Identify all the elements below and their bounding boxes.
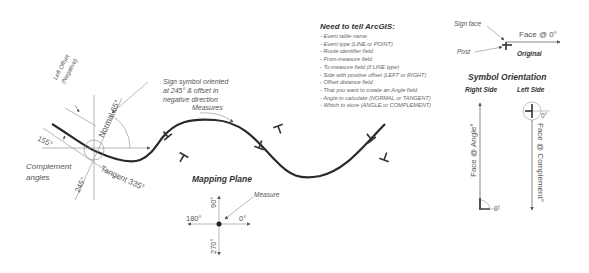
sign-symbols [160, 124, 392, 164]
instruction-item: - To-measure field (if LINE type) [320, 64, 431, 72]
deg-90-label: 90° [209, 197, 218, 208]
sign-note-line-1: Sign symbol oriented [163, 78, 228, 85]
deg-180-label: 180° [186, 214, 202, 223]
right-side-label: Right Side [465, 86, 497, 93]
instruction-item: - Event table name [320, 33, 431, 41]
face-0-label: Face @ 0° [519, 30, 557, 39]
measures-label: Measures [192, 104, 223, 111]
mapping-plane-title: Mapping Plane [192, 174, 252, 184]
deg-270-label: 270° [209, 238, 218, 254]
zero-right-label: 0° [494, 205, 500, 212]
complement-label: Complement [26, 162, 71, 171]
instruction-item: - Angle to calculate (NORMAL or TANGENT) [320, 95, 431, 103]
mapping-plane-origin [217, 222, 222, 227]
face-complement-label: Face @ Complement° [536, 123, 545, 202]
instructions-panel: Need to tell ArcGIS: - Event table name … [320, 22, 431, 110]
right-side-symbol [480, 103, 500, 210]
angles-label: angles [26, 173, 50, 182]
instructions-heading: Need to tell ArcGIS: [320, 22, 431, 32]
instruction-item: - Side with positive offset (LEFT or RIG… [320, 72, 431, 80]
original-title: Original [517, 50, 542, 57]
sign-note-line-2: at 245° & offset in [163, 87, 218, 94]
instruction-item: - Which to store (ANGLE or COMPLEMENT) [320, 102, 431, 110]
instruction-item: - That you want to create an Angle field [320, 87, 431, 95]
left-side-label: Left Side [517, 86, 544, 93]
measure-label: Measure [254, 191, 279, 198]
instruction-item: - Offset distance field [320, 79, 431, 87]
face-angle-label: Face @ Angle° [469, 123, 478, 177]
orientation-title: Symbol Orientation [468, 72, 546, 82]
instruction-item: - Event type (LINE or POINT) [320, 41, 431, 49]
instruction-item: - Route identifier field [320, 48, 431, 56]
post-label: Post [457, 48, 470, 55]
diagram-canvas [0, 0, 589, 273]
instruction-item: - From-measure field [320, 56, 431, 64]
deg-0-label: 0° [239, 214, 246, 223]
sign-face-label: Sign face [454, 20, 481, 27]
zero-left-label: 0° [541, 112, 547, 119]
sign-note-line-3: negative direction [163, 96, 218, 103]
